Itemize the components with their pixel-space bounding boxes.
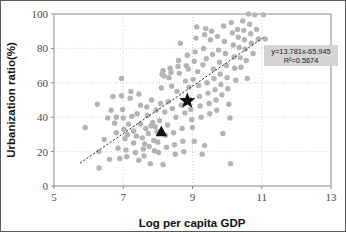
data-point xyxy=(145,131,150,136)
data-point xyxy=(148,161,153,166)
data-point xyxy=(226,102,231,107)
scatter-chart-figure: 020406080100 5791113 Log per capita GDP … xyxy=(0,0,346,232)
data-point xyxy=(138,102,143,107)
data-point xyxy=(186,66,191,71)
y-tick-label: 0 xyxy=(43,180,49,192)
data-point xyxy=(204,80,209,85)
data-point xyxy=(170,106,175,111)
data-point xyxy=(189,117,194,122)
x-tick-label: 13 xyxy=(326,191,338,203)
data-point xyxy=(254,27,259,32)
data-point xyxy=(199,151,204,156)
x-axis-title: Log per capita GDP xyxy=(139,217,246,229)
data-point xyxy=(250,51,255,56)
data-point xyxy=(225,86,230,91)
data-point xyxy=(177,71,182,76)
data-point xyxy=(216,47,221,52)
data-point xyxy=(214,108,219,113)
data-point xyxy=(205,90,210,95)
data-point xyxy=(252,12,257,17)
data-point xyxy=(193,35,198,40)
data-point xyxy=(166,75,171,80)
y-tick-label: 60 xyxy=(37,77,49,89)
data-point xyxy=(221,23,226,28)
data-point xyxy=(152,124,157,129)
data-point xyxy=(261,12,266,17)
data-point xyxy=(218,72,223,77)
y-tick-label: 20 xyxy=(37,146,49,158)
regression-equation-text: y=13.781x-65.945 xyxy=(271,47,330,56)
data-point xyxy=(218,82,223,87)
x-tick-label: 7 xyxy=(121,191,127,203)
regression-annotation-box: y=13.781x-65.945 R²=0.5674 xyxy=(264,45,338,66)
x-tick-label: 11 xyxy=(256,191,267,203)
data-point xyxy=(217,59,222,64)
data-point xyxy=(95,102,100,107)
data-point xyxy=(190,125,195,130)
data-point xyxy=(237,45,242,50)
data-point xyxy=(192,59,197,64)
data-point xyxy=(112,121,117,126)
data-point xyxy=(157,118,162,123)
data-point xyxy=(169,84,174,89)
data-point xyxy=(203,26,208,31)
data-point xyxy=(172,151,177,156)
data-point xyxy=(155,139,160,144)
data-point xyxy=(127,96,132,101)
data-point xyxy=(126,121,131,126)
data-point xyxy=(206,101,211,106)
data-point xyxy=(158,101,163,106)
trendline xyxy=(80,38,264,164)
plot-svg: 020406080100 5791113 Log per capita GDP … xyxy=(1,1,346,232)
data-point xyxy=(102,137,107,142)
data-point xyxy=(207,111,212,116)
data-point xyxy=(156,150,161,155)
r-squared-text: R²=0.5674 xyxy=(284,56,319,65)
data-point xyxy=(129,114,134,119)
data-point xyxy=(160,68,165,73)
data-point xyxy=(242,37,247,42)
data-point xyxy=(248,31,253,36)
x-tick-labels-group: 5791113 xyxy=(51,191,337,203)
data-point xyxy=(181,149,186,154)
data-point xyxy=(131,140,136,145)
data-point xyxy=(215,34,220,39)
data-point xyxy=(231,42,236,47)
data-point xyxy=(124,154,129,159)
data-point xyxy=(115,145,120,150)
data-point xyxy=(171,130,176,135)
data-point xyxy=(232,65,237,70)
data-point xyxy=(185,53,190,58)
y-tick-label: 40 xyxy=(37,111,49,123)
data-point xyxy=(222,39,227,44)
data-point xyxy=(179,126,184,131)
data-point xyxy=(144,104,149,109)
data-point xyxy=(228,161,233,166)
data-point xyxy=(125,132,130,137)
data-point xyxy=(224,63,229,68)
data-point xyxy=(133,150,138,155)
data-point xyxy=(119,76,124,81)
data-point xyxy=(143,126,148,131)
data-point xyxy=(140,135,145,140)
data-point xyxy=(123,147,128,152)
data-point xyxy=(195,69,200,74)
data-point xyxy=(114,115,119,120)
data-point xyxy=(243,58,248,63)
data-point xyxy=(165,122,170,127)
data-point xyxy=(240,18,245,23)
data-point xyxy=(210,52,215,57)
data-point xyxy=(197,103,202,108)
data-point xyxy=(227,115,232,120)
data-point xyxy=(211,66,216,71)
data-point xyxy=(200,62,205,67)
data-point xyxy=(246,11,251,16)
data-point xyxy=(263,36,268,41)
data-point xyxy=(178,41,183,46)
data-point xyxy=(141,153,146,158)
data-point xyxy=(220,131,225,136)
data-point xyxy=(201,46,206,51)
highlight-markers-group xyxy=(156,92,196,136)
data-point xyxy=(174,89,179,94)
data-point xyxy=(82,125,87,130)
